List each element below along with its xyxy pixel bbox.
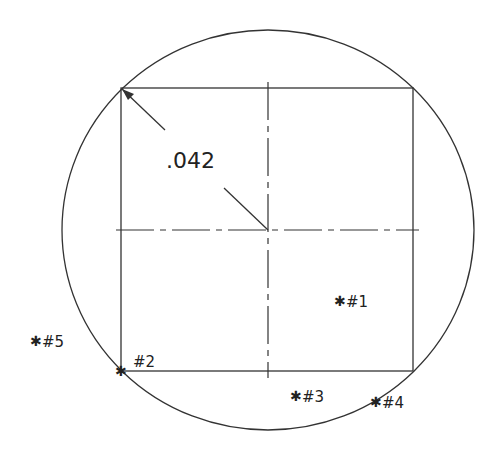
point-1: ✱ #1 — [334, 293, 368, 311]
radius-leader-lower — [224, 188, 268, 230]
tolerance-diagram: .042 ✱ #1 ✱ #2 ✱ #3 ✱ #4 ✱ #5 — [0, 0, 486, 462]
star-marker-icon: ✱ — [30, 333, 42, 349]
point-label: #2 — [133, 353, 155, 371]
star-marker-icon: ✱ — [370, 394, 382, 410]
point-label: #4 — [382, 394, 404, 412]
star-marker-icon: ✱ — [290, 388, 302, 404]
dimension-label: .042 — [166, 148, 215, 173]
point-label: #5 — [42, 333, 64, 351]
point-3: ✱ #3 — [290, 388, 324, 406]
point-label: #3 — [302, 388, 324, 406]
star-marker-icon: ✱ — [115, 363, 127, 379]
star-marker-icon: ✱ — [334, 293, 346, 309]
point-4: ✱ #4 — [370, 394, 404, 412]
point-label: #1 — [346, 293, 368, 311]
point-5: ✱ #5 — [30, 333, 64, 351]
